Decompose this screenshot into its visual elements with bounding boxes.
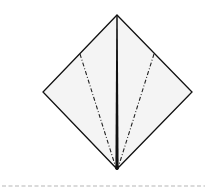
origami-diagram xyxy=(0,0,207,192)
bottom-tip xyxy=(115,167,118,170)
